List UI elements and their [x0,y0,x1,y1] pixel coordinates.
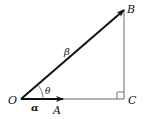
label-theta: θ [45,86,51,96]
label-b: B [126,3,135,16]
label-a: A [52,104,61,117]
vector-diagram: O A B C α β θ [0,0,145,119]
angle-arc-theta [38,85,43,99]
label-beta: β [63,46,70,57]
right-angle-marker [117,92,124,99]
label-c: C [128,94,137,107]
label-o: O [8,94,17,107]
label-alpha: α [31,102,39,113]
vector-beta [21,10,124,99]
